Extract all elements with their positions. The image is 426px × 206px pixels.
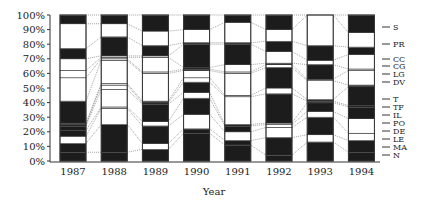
y-tick-label: 100% [16,10,45,21]
segment-CG [184,44,210,67]
segment-PR [101,24,127,37]
segment-IL [266,94,292,123]
segment-N [348,152,374,161]
segment-DE [60,130,86,136]
legend: SPRCCCGLGDVTTFILPODELEMAN [382,23,407,160]
segment-PR [142,31,168,46]
segment-TF [266,88,292,94]
segment-T [101,60,127,83]
segment-T [142,73,168,101]
segment-MA [225,141,251,145]
x-axis-title: Year [202,186,226,197]
segment-IL [184,82,210,92]
segment-T [266,68,292,88]
segment-DE [225,126,251,132]
segment-CG [348,54,374,69]
segment-MA [184,129,210,133]
segment-S [225,15,251,22]
bar-1991 [225,15,251,161]
x-tick-label: 1993 [307,166,332,177]
segment-N [184,133,210,161]
segment-LE [307,117,333,135]
segment-LE [184,114,210,129]
x-tick-label: 1991 [225,166,250,177]
bar-1992 [266,15,292,161]
segment-PO [142,104,168,122]
stacked-bar-chart: 0%10%20%30%40%50%60%70%80%90%100% 198719… [0,0,426,206]
segment-PR [307,15,333,46]
segment-LG [307,65,333,80]
segment-CC [307,46,333,61]
x-tick-label: 1987 [60,166,85,177]
segment-DE [142,122,168,126]
bar-1994 [348,15,374,161]
segment-PO [184,92,210,98]
segment-LE [142,126,168,144]
segment-LG [142,57,168,72]
segment-LE [266,127,292,137]
x-tick-label: 1988 [101,166,126,177]
segment-T [225,73,251,95]
bar-1993 [307,15,333,161]
bar-1989 [142,15,168,161]
segment-IL [225,97,251,125]
segment-PR [266,30,292,42]
segment-MA [60,143,86,152]
segment-S [101,15,127,24]
segment-CC [101,37,127,56]
y-tick-label: 30% [23,112,45,123]
segment-MA [307,135,333,142]
segment-T [307,81,333,100]
segment-S [60,15,86,24]
x-tick-label: 1989 [143,166,168,177]
segment-N [307,142,333,161]
segment-T [60,101,86,123]
y-tick-label: 50% [23,83,45,94]
y-tick-label: 60% [23,68,45,79]
segment-CG [60,59,86,71]
segment-N [101,152,127,161]
segment-LE [348,133,374,140]
legend-label-N: N [393,151,400,160]
segment-CG [225,44,251,64]
segment-CC [348,47,374,54]
segment-PO [101,89,127,107]
y-tick-label: 0% [29,156,45,167]
segment-DE [266,125,292,128]
segment-CC [60,49,86,59]
segment-MA [348,141,374,153]
segment-IL [101,85,127,89]
bar-1988 [101,15,127,161]
segment-MA [101,125,127,153]
y-tick-label: 10% [23,141,45,152]
segment-CC [266,41,292,51]
x-axis: 19871988198919901991199219931994 [60,166,374,177]
segment-TF [348,87,374,106]
segment-DE [184,98,210,114]
legend-label-PR: PR [393,40,405,49]
x-tick-label: 1992 [266,166,291,177]
segment-N [266,155,292,161]
x-tick-label: 1990 [184,166,209,177]
segment-MA [142,143,168,149]
segment-LE [225,132,251,141]
segment-CC [142,46,168,56]
segment-CG [266,52,292,64]
legend-label-DV: DV [393,78,405,87]
segment-PO [348,107,374,119]
segment-DV [266,65,292,68]
segment-LE [60,136,86,143]
segment-N [60,152,86,161]
segment-LG [60,70,86,77]
segment-LG [225,65,251,72]
segment-LE [101,108,127,124]
segment-PR [184,30,210,43]
segment-DE [348,119,374,134]
segment-CG [307,60,333,64]
y-tick-label: 20% [23,126,45,137]
y-tick-label: 70% [23,53,45,64]
x-tick-label: 1994 [349,166,374,177]
segment-PR [225,22,251,42]
segment-TF [184,78,210,82]
segment-PO [60,126,86,130]
